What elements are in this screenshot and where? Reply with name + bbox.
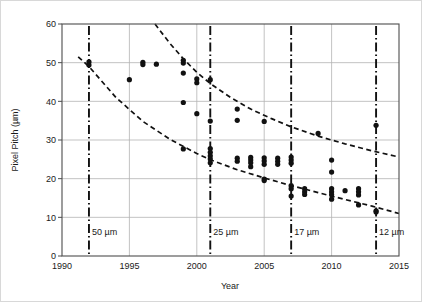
data-point xyxy=(356,192,361,197)
y-tick-label: 40 xyxy=(46,97,56,107)
data-point xyxy=(248,164,253,169)
data-point xyxy=(208,77,213,82)
chart-figure: 0102030405060 199019952000200520102015 5… xyxy=(0,0,422,302)
y-tick-label: 60 xyxy=(46,19,56,29)
data-point xyxy=(140,62,145,67)
data-point xyxy=(235,106,240,111)
data-point xyxy=(316,131,321,136)
data-point xyxy=(289,193,294,198)
y-axis-title: Pixel Pitch (µm) xyxy=(10,108,20,171)
data-point xyxy=(373,123,378,128)
data-point xyxy=(329,158,334,163)
data-point xyxy=(127,77,132,82)
data-point xyxy=(356,202,361,207)
x-tick-label: 1995 xyxy=(119,261,139,271)
data-point xyxy=(289,161,294,166)
x-tick-label: 2005 xyxy=(254,261,274,271)
x-tick-label: 2000 xyxy=(187,261,207,271)
data-point xyxy=(329,197,334,202)
x-tick-label: 1990 xyxy=(52,261,72,271)
data-point xyxy=(154,62,159,67)
x-tick-label: 2010 xyxy=(322,261,342,271)
data-point xyxy=(329,169,334,174)
y-tick-label: 10 xyxy=(46,213,56,223)
y-tick-label: 30 xyxy=(46,135,56,145)
data-point xyxy=(275,162,280,167)
annotation-label: 25 µm xyxy=(213,227,238,237)
data-point xyxy=(194,111,199,116)
data-point xyxy=(329,192,334,197)
data-point xyxy=(262,178,267,183)
y-tick-label: 20 xyxy=(46,174,56,184)
data-point xyxy=(342,188,347,193)
data-point xyxy=(302,192,307,197)
data-point xyxy=(235,118,240,123)
x-tick-label: 2015 xyxy=(389,261,409,271)
x-axis-title: Year xyxy=(221,281,239,291)
data-point xyxy=(373,209,378,214)
data-point xyxy=(235,159,240,164)
y-tick-label: 50 xyxy=(46,58,56,68)
data-point xyxy=(208,118,213,123)
y-tick-label: 0 xyxy=(51,251,56,261)
data-point xyxy=(181,100,186,105)
annotation-label: 50 µm xyxy=(92,227,117,237)
data-point xyxy=(181,60,186,65)
data-point xyxy=(86,62,91,67)
data-point xyxy=(181,71,186,76)
data-point xyxy=(208,160,213,165)
annotation-label: 17 µm xyxy=(294,227,319,237)
data-point xyxy=(262,119,267,124)
data-point xyxy=(194,80,199,85)
data-point xyxy=(262,162,267,167)
pixel-pitch-scatter-chart: 0102030405060 199019952000200520102015 5… xyxy=(1,1,421,301)
data-point xyxy=(289,186,294,191)
annotation-label: 12 µm xyxy=(379,227,404,237)
data-point xyxy=(181,146,186,151)
